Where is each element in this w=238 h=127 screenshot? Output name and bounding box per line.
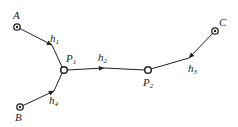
- pipe-network-diagram: A B C P1 P2 h1 h2 h3 h4: [0, 0, 238, 127]
- label-a: A: [12, 9, 20, 21]
- edge-h2: [67, 68, 145, 70]
- edge-h1: [19, 28, 62, 67]
- junction-node-p2: [145, 67, 152, 74]
- label-h4: h4: [49, 94, 59, 108]
- edge-h3: [151, 33, 213, 69]
- junction-node-p1: [61, 67, 68, 74]
- source-node-b: [17, 104, 23, 110]
- label-c: C: [219, 16, 227, 28]
- label-b: B: [15, 111, 22, 123]
- label-h1: h1: [50, 32, 59, 46]
- source-node-c: [212, 28, 218, 34]
- label-h3: h3: [188, 62, 198, 76]
- label-h2: h2: [98, 51, 108, 65]
- label-p2: P2: [142, 76, 154, 90]
- label-p1: P1: [65, 52, 76, 66]
- source-node-a: [14, 24, 20, 30]
